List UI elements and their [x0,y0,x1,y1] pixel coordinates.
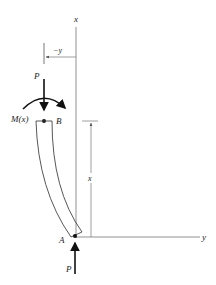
neg-y-label: −y [53,46,62,55]
load-p-bottom-label: P [65,264,72,274]
column-outline [36,121,82,237]
x-dimension-label: x [87,174,92,183]
x-axis-label: x [73,14,78,24]
column-diagram: x y −y P M(x) B A x P [0,0,216,285]
point-a-dot [73,234,77,238]
y-axis-label: y [201,232,206,242]
load-p-top-label: P [33,71,40,81]
point-b-label: B [56,116,62,126]
point-a-label: A [58,235,65,245]
moment-label: M(x) [10,114,29,124]
